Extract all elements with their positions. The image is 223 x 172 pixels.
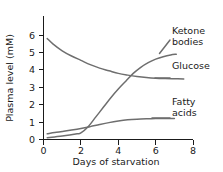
x-tick-label-4: 4	[115, 145, 121, 156]
y-tick-label-1: 1	[29, 117, 35, 128]
x-axis: 02468 Days of starvation	[40, 140, 196, 168]
x-axis-title: Days of starvation	[73, 156, 160, 167]
x-tick-label-2: 2	[78, 145, 84, 156]
x-tick-label-8: 8	[190, 145, 196, 156]
x-tick-label-0: 0	[40, 145, 46, 156]
y-tick-labels: 0123456	[29, 30, 35, 145]
y-tick-label-6: 6	[29, 30, 35, 41]
plasma-level-chart: 0123456 Plasma level (mM) 02468 Days of …	[0, 0, 223, 172]
y-tick-label-0: 0	[29, 134, 35, 145]
data-series	[47, 39, 184, 138]
curve-ketone-bodies	[47, 54, 176, 138]
curve-fatty-acids	[47, 119, 174, 134]
y-tick-label-4: 4	[29, 64, 35, 75]
y-tick-label-5: 5	[29, 47, 35, 58]
y-tick-label-3: 3	[29, 82, 35, 93]
x-tick-marks	[44, 140, 194, 145]
leader-line-ketone	[160, 40, 171, 54]
y-axis-title: Plasma level (mM)	[4, 34, 15, 122]
y-axis: 0123456 Plasma level (mM)	[4, 16, 44, 145]
series-label-glucose: Glucose	[172, 61, 210, 72]
series-label-fatty-acids: Fatty acids	[172, 97, 197, 118]
x-tick-label-6: 6	[153, 145, 159, 156]
y-tick-label-2: 2	[29, 99, 35, 110]
series-label-ketone-bodies: Ketone bodies	[172, 26, 205, 47]
curve-glucose	[47, 39, 184, 79]
x-tick-labels: 02468	[40, 145, 196, 156]
y-tick-marks	[39, 35, 44, 139]
